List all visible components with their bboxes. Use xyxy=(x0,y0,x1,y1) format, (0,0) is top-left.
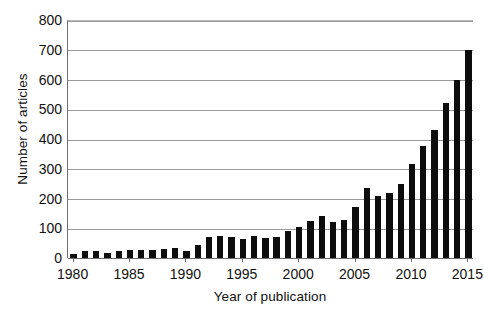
bar-series xyxy=(68,21,473,258)
bar xyxy=(127,250,133,258)
bar xyxy=(409,164,415,258)
x-tick-label-2005: 2005 xyxy=(325,266,385,282)
y-tick-label-600: 600 xyxy=(4,73,62,87)
y-tick-label-500: 500 xyxy=(4,102,62,116)
bar xyxy=(341,220,347,258)
bar xyxy=(465,50,471,258)
bar xyxy=(217,236,223,258)
bar xyxy=(431,130,437,258)
x-tick-mark-2005 xyxy=(355,258,356,262)
x-tick-mark-2000 xyxy=(298,258,299,262)
x-tick-label-1980: 1980 xyxy=(43,266,103,282)
x-tick-label-1985: 1985 xyxy=(99,266,159,282)
y-tick-label-0: 0 xyxy=(4,251,62,265)
bar xyxy=(273,237,279,258)
bar xyxy=(364,188,370,259)
x-tick-label-2000: 2000 xyxy=(268,266,328,282)
bar xyxy=(420,146,426,258)
bar xyxy=(172,248,178,258)
bar xyxy=(138,250,144,258)
x-tick-mark-2010 xyxy=(411,258,412,262)
bar xyxy=(330,222,336,258)
bar xyxy=(386,193,392,258)
x-tick-mark-1995 xyxy=(242,258,243,262)
bar xyxy=(262,238,268,258)
x-tick-mark-2015 xyxy=(467,258,468,262)
x-tick-mark-1985 xyxy=(129,258,130,262)
bar xyxy=(375,196,381,258)
plot-area xyxy=(67,20,473,258)
x-axis-tick-labels: 19801985199019952000200520102015 xyxy=(67,266,473,284)
bar xyxy=(307,221,313,258)
y-tick-label-200: 200 xyxy=(4,192,62,206)
y-tick-label-300: 300 xyxy=(4,162,62,176)
bar xyxy=(285,231,291,258)
bar xyxy=(240,239,246,258)
bar xyxy=(454,80,460,259)
bar xyxy=(352,207,358,258)
y-tick-label-800: 800 xyxy=(4,13,62,27)
bar xyxy=(228,237,234,258)
x-tick-mark-1980 xyxy=(73,258,74,262)
bar xyxy=(149,250,155,258)
x-tick-label-1990: 1990 xyxy=(155,266,215,282)
x-axis-title: Year of publication xyxy=(67,289,473,305)
bar xyxy=(296,227,302,258)
bar xyxy=(161,249,167,258)
bar xyxy=(319,216,325,258)
bar xyxy=(116,251,122,258)
x-tick-label-1995: 1995 xyxy=(212,266,272,282)
bar xyxy=(195,245,201,258)
x-tick-label-2015: 2015 xyxy=(437,266,484,282)
bar xyxy=(443,103,449,258)
x-axis-tick-marks xyxy=(67,258,473,263)
y-tick-label-700: 700 xyxy=(4,43,62,57)
y-tick-label-400: 400 xyxy=(4,132,62,146)
x-tick-label-2010: 2010 xyxy=(381,266,441,282)
x-tick-mark-1990 xyxy=(185,258,186,262)
bar xyxy=(93,251,99,258)
bar xyxy=(251,236,257,258)
y-tick-label-100: 100 xyxy=(4,221,62,235)
bar-chart: Number of articles 010020030040050060070… xyxy=(0,0,484,314)
bar xyxy=(206,237,212,258)
bar xyxy=(398,184,404,258)
